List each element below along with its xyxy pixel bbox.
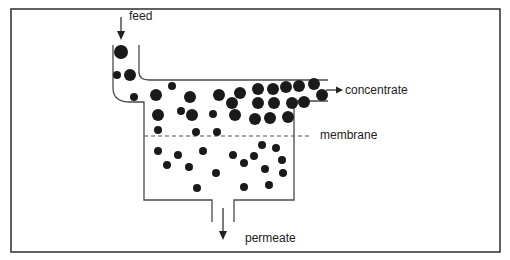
membrane-filtration-diagram [0, 0, 510, 260]
large-particle [186, 109, 198, 121]
concentrate-label: concentrate [345, 83, 408, 97]
small-particle [193, 184, 201, 192]
small-particle [209, 110, 217, 118]
small-particle [192, 128, 200, 136]
small-particle [174, 151, 182, 159]
small-particle [163, 161, 171, 169]
large-particle [280, 81, 292, 93]
small-particle [258, 141, 266, 149]
large-particle [150, 89, 162, 101]
large-particle [226, 97, 238, 109]
large-particle [268, 97, 280, 109]
retained-particles [114, 45, 328, 125]
large-particle [267, 83, 279, 95]
large-particle [249, 113, 261, 125]
small-particle [213, 128, 221, 136]
small-particle [168, 82, 176, 90]
large-particle [234, 87, 246, 99]
small-particle [154, 147, 162, 155]
large-particle [264, 112, 276, 124]
large-particle [293, 80, 305, 92]
small-particle [199, 147, 207, 155]
diagram-frame [11, 9, 500, 252]
small-particle [185, 163, 193, 171]
small-particle [240, 159, 248, 167]
large-particle [282, 111, 294, 123]
permeate-label: permeate [245, 231, 296, 245]
small-particle [212, 169, 220, 177]
membrane-label: membrane [320, 128, 377, 142]
large-particle [286, 97, 298, 109]
large-particle [152, 109, 164, 121]
small-particle [113, 71, 121, 79]
feed-arrow-icon [117, 17, 125, 40]
large-particle [124, 69, 136, 81]
large-particle [308, 78, 320, 90]
small-particle [130, 93, 138, 101]
large-particle [252, 83, 264, 95]
small-particle [250, 152, 258, 160]
permeate-arrow-icon [219, 208, 227, 240]
small-particle [177, 107, 185, 115]
small-particle [261, 165, 269, 173]
feed-label: feed [129, 9, 152, 23]
small-particle [240, 183, 248, 191]
concentrate-arrow-icon [326, 87, 343, 94]
large-particle [298, 96, 310, 108]
small-particle [229, 151, 237, 159]
small-particle [265, 181, 273, 189]
large-particle [316, 89, 328, 101]
small-particle [279, 169, 287, 177]
inlet-inner-wall [139, 45, 328, 80]
small-particle [154, 126, 162, 134]
small-particle [278, 156, 286, 164]
large-particle [213, 89, 225, 101]
large-particle [114, 45, 128, 59]
small-particle [272, 144, 280, 152]
large-particle [184, 91, 196, 103]
large-particle [252, 97, 264, 109]
large-particle [229, 109, 241, 121]
